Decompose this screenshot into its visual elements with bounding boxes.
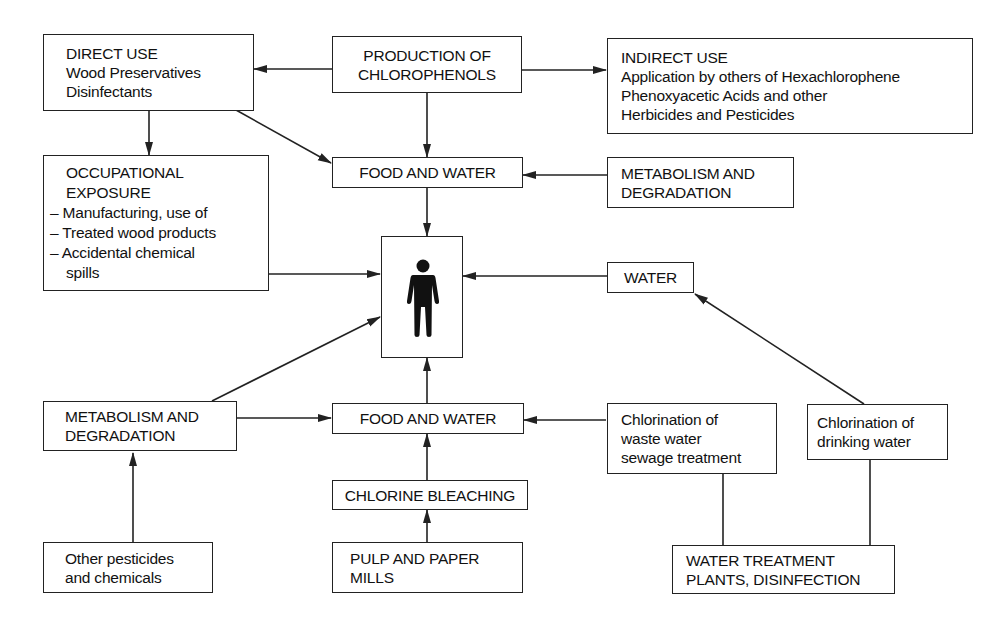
node-line: DEGRADATION [621, 183, 793, 202]
node-indirect-use: INDIRECT USE Application by others of He… [607, 38, 973, 134]
node-line: Disinfectants [66, 82, 253, 101]
node-line: CHLORINE BLEACHING [345, 486, 515, 505]
node-list-item: – Treated wood products [50, 223, 268, 243]
node-heading: OCCUPATIONAL [66, 163, 268, 183]
node-line: METABOLISM AND [65, 407, 236, 426]
node-line: WATER [624, 268, 677, 287]
node-list-item: spills [66, 263, 268, 283]
node-food-and-water-bottom: FOOD AND WATER [332, 403, 524, 434]
node-line: FOOD AND WATER [359, 163, 496, 182]
node-line: PULP AND PAPER [350, 549, 522, 568]
node-metabolism-degradation-bottom: METABOLISM AND DEGRADATION [43, 401, 237, 451]
node-line: Chlorination of [817, 413, 947, 432]
node-heading: DIRECT USE [66, 44, 253, 63]
node-water: WATER [607, 262, 694, 293]
node-line: MILLS [350, 568, 522, 587]
node-line: METABOLISM AND [621, 164, 793, 183]
node-occupational-exposure: OCCUPATIONAL EXPOSURE – Manufacturing, u… [43, 155, 269, 291]
node-line: PLANTS, DISINFECTION [686, 570, 894, 589]
node-line: drinking water [817, 432, 947, 451]
node-line: Other pesticides [65, 549, 212, 568]
node-line: Application by others of Hexachlorophene [621, 67, 972, 86]
node-human [381, 236, 463, 358]
node-line: Wood Preservatives [66, 63, 253, 82]
node-line: and chemicals [65, 568, 212, 587]
node-chlorine-bleaching: CHLORINE BLEACHING [332, 480, 528, 510]
node-line: PRODUCTION OF [363, 46, 490, 65]
node-line: waste water [621, 429, 776, 448]
node-production-of-chlorophenols: PRODUCTION OF CHLOROPHENOLS [332, 36, 522, 93]
node-list-item: – Accidental chemical [50, 243, 268, 263]
node-other-pesticides: Other pesticides and chemicals [43, 542, 213, 593]
node-food-and-water-top: FOOD AND WATER [332, 157, 523, 188]
edge-drinking-water [695, 294, 864, 404]
node-heading: INDIRECT USE [621, 48, 972, 67]
node-chlorination-waste-water: Chlorination of waste water sewage treat… [607, 403, 777, 474]
node-line: DEGRADATION [65, 426, 236, 445]
node-metabolism-degradation-top: METABOLISM AND DEGRADATION [607, 157, 794, 208]
node-line: CHLOROPHENOLS [358, 65, 496, 84]
node-pulp-and-paper-mills: PULP AND PAPER MILLS [332, 542, 523, 593]
person-icon [406, 259, 440, 337]
node-direct-use: DIRECT USE Wood Preservatives Disinfecta… [43, 34, 254, 111]
node-line: Phenoxyacetic Acids and other [621, 86, 972, 105]
node-line: Chlorination of [621, 410, 776, 429]
node-list-item: – Manufacturing, use of [50, 203, 268, 223]
node-line: Herbicides and Pesticides [621, 105, 972, 124]
node-line: FOOD AND WATER [360, 409, 497, 428]
node-water-treatment-plants: WATER TREATMENT PLANTS, DISINFECTION [672, 545, 895, 594]
edge-metabolism-human [212, 317, 380, 401]
node-line: sewage treatment [621, 448, 776, 467]
node-chlorination-drinking-water: Chlorination of drinking water [807, 404, 948, 460]
node-heading: EXPOSURE [66, 183, 268, 203]
node-line: WATER TREATMENT [686, 551, 894, 570]
